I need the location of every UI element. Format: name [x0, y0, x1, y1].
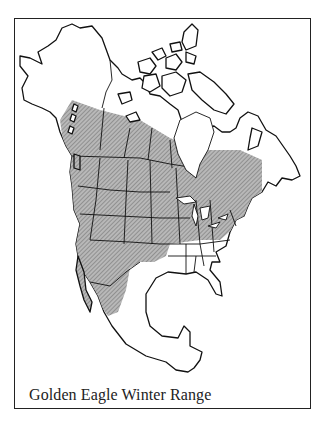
- map-caption: Golden Eagle Winter Range: [29, 386, 211, 404]
- north-america-map: [0, 0, 330, 425]
